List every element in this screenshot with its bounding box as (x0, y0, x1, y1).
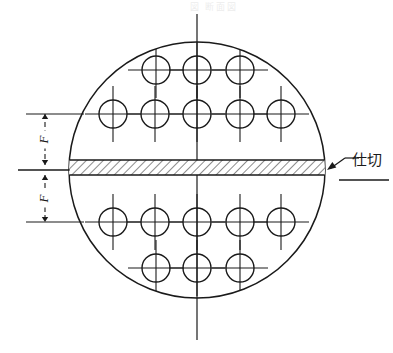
dimension-upper: F (36, 114, 51, 165)
dimension-label-lower: F (36, 193, 51, 203)
partition-clipped (59, 160, 345, 175)
dimension-arrow-up (42, 114, 48, 119)
dimension-arrow-up (42, 175, 48, 180)
tubesheet-drawing: FF 仕切 (0, 0, 393, 353)
dimension-lower: F (36, 175, 51, 222)
dimension-arrow-down (42, 160, 48, 165)
tube-hole (253, 194, 309, 250)
tube-hole (212, 240, 268, 296)
partition-label: 仕切 (352, 151, 382, 169)
dimension-label-upper: F (36, 134, 51, 144)
partition-plate-group (59, 160, 345, 175)
dimension-arrow-down (42, 217, 48, 222)
partition-hatch-fill (59, 160, 335, 175)
partition-leader-group: 仕切 (327, 151, 389, 181)
leader-arrowhead (327, 162, 336, 170)
